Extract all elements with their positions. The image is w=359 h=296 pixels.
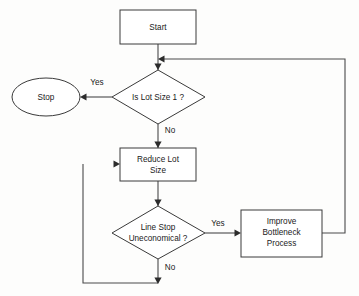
node-reduce-lot-size-label-line1: Reduce Lot <box>137 155 180 164</box>
edge-label-no-bottom: No <box>165 263 176 272</box>
edge-decide2-to-improve <box>205 229 241 236</box>
edge-improve-to-decide1-feedback <box>158 55 345 233</box>
node-improve-bottleneck-process-label-line3: Process <box>267 239 297 248</box>
node-decision-line-stop-uneconomical-label-line2: Uneconomical ? <box>129 234 188 243</box>
node-improve-bottleneck-process-label-line1: Improve <box>267 217 297 226</box>
node-reduce-lot-size-label-line2: Size <box>150 166 166 175</box>
edge-label-yes-bottom: Yes <box>211 219 224 228</box>
flowchart-svg: Start Is Lot Size 1 ? Stop Reduce Lot Si… <box>0 0 359 296</box>
node-reduce-lot-size[interactable]: Reduce Lot Size <box>120 148 196 181</box>
node-stop[interactable]: Stop <box>12 78 80 116</box>
node-stop-label: Stop <box>38 93 55 102</box>
node-decision-is-lot-size-one[interactable]: Is Lot Size 1 ? <box>112 70 205 124</box>
edge-decide1-to-reduce <box>154 124 161 148</box>
edge-decide1-to-stop <box>80 93 112 100</box>
node-improve-bottleneck-process[interactable]: Improve Bottleneck Process <box>241 210 322 257</box>
node-decision-line-stop-uneconomical-label-line1: Line Stop <box>141 223 176 232</box>
edge-start-to-decide1 <box>154 44 161 70</box>
edge-label-yes-top: Yes <box>90 78 103 87</box>
node-improve-bottleneck-process-label-line2: Bottleneck <box>262 228 301 237</box>
edge-label-no-top: No <box>165 126 176 135</box>
node-decision-is-lot-size-one-label: Is Lot Size 1 ? <box>132 93 184 102</box>
node-start[interactable]: Start <box>120 10 196 44</box>
node-start-label: Start <box>149 23 167 32</box>
node-decision-line-stop-uneconomical[interactable]: Line Stop Uneconomical ? <box>112 206 205 259</box>
edge-reduce-to-decide2 <box>154 181 161 206</box>
flowchart-canvas: Start Is Lot Size 1 ? Stop Reduce Lot Si… <box>0 0 359 296</box>
